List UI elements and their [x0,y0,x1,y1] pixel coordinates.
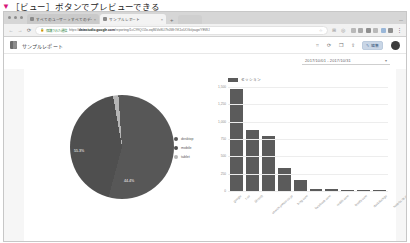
date-range-value: 2017/10/01 - 2017/10/31 [305,58,351,63]
pie-slice-label-mobile: 44.4% [124,179,134,183]
address-bar[interactable]: 🔒 保護された通信 https://datastudio.google.com/… [35,26,328,35]
pencil-icon: ✎ [366,43,369,48]
report-subbar: 2017/10/01 - 2017/10/31 ▾ [4,54,406,69]
new-tab-button[interactable]: + [167,17,177,24]
x-axis-label: google [232,194,242,203]
legend-label: desktop [181,137,194,141]
profile-icon[interactable]: ◎ [340,27,346,33]
extension-badge-icon[interactable]: ⊞ [331,27,337,33]
close-window-dot[interactable] [8,16,11,19]
tab-ghost [178,15,202,24]
report-title: サンプルレポート [22,42,63,49]
y-axis-tick: 250 [221,172,226,176]
gridline [228,122,388,123]
refresh-icon[interactable]: ⟳ [326,42,332,48]
tab-title: すべてのユーザー > すべてのデータ [36,17,92,22]
gridline [228,104,388,105]
url-path: /reporting/1cC99QO2o-eq86VoSLl7h0Wr7iK1x… [115,28,210,32]
favicon-icon [103,17,107,21]
caption-bullet-icon: ▼ [2,3,10,11]
avatar[interactable] [391,41,400,50]
bar-chart-legend: セッション [228,77,261,82]
bar[interactable] [294,180,307,191]
y-axis-tick: 1,250 [218,103,226,107]
tab-strip: すべてのユーザー > すべてのデータ × サンプルレポート × + — [4,12,406,24]
back-icon[interactable]: ← [8,27,14,33]
extension-icon-5[interactable] [381,28,386,33]
legend-label: tablet [181,155,190,159]
gridline [228,191,388,192]
secure-label: 保護された通信 [46,28,67,33]
minimize-icon[interactable]: — [399,17,403,22]
bar-chart[interactable]: セッション 1,5001,2501,0007505002500 googlet.… [204,77,394,237]
gridline [228,156,388,157]
legend-swatch-tablet [174,155,178,159]
window-controls[interactable]: — [399,17,406,24]
legend-label: mobile [181,146,192,150]
favicon-icon [30,17,34,21]
gridline [228,139,388,140]
legend-item[interactable]: tablet [174,155,194,159]
reset-icon[interactable]: ⌗ [314,42,320,49]
x-axis-label: bing.com [297,194,309,206]
page-content: サンプルレポート ⌗ ⟳ ❐ ⇪ ✎ 編集 2017/10/01 - 2017/… [4,37,406,242]
x-axis-label: reddit.com [336,194,350,207]
x-axis-label: facebook.com [314,194,331,210]
pie-chart[interactable]: 55.3% 44.4% desktop mobile tablet [62,87,202,207]
close-icon[interactable]: × [161,17,163,22]
minimize-window-dot[interactable] [14,16,17,19]
extension-icon-6[interactable] [388,28,393,33]
chevron-down-icon: ▾ [385,59,387,63]
omnibox-icons: ☆ [319,28,323,33]
bookmark-star-icon[interactable]: ☆ [319,28,323,33]
browser-tab-1[interactable]: すべてのユーザー > すべてのデータ × [27,14,99,24]
y-axis-tick: 1,000 [218,120,226,124]
bar[interactable] [278,168,291,191]
canvas-left-margin [4,69,24,242]
copy-icon[interactable]: ❐ [338,42,344,48]
window-buttons[interactable] [7,12,27,24]
legend-swatch-mobile [174,146,178,150]
x-axis-label: t.co [244,194,250,200]
x-axis-label: search.yahoo.co.jp [271,194,294,215]
url-text: https://datastudio.google.com/reporting/… [69,28,210,32]
lock-icon: 🔒 [40,28,44,32]
legend-item[interactable]: mobile [174,146,194,150]
close-icon[interactable]: × [94,17,96,22]
extension-toolbar[interactable] [349,28,394,33]
browser-menu-icon[interactable]: ⋮ [396,27,402,33]
tab-title: サンプルレポート [109,17,159,22]
x-axis-label: feedly.com [354,194,368,207]
legend-swatch-desktop [174,137,178,141]
edit-button[interactable]: ✎ 編集 [362,41,383,50]
app-header: サンプルレポート ⌗ ⟳ ❐ ⇪ ✎ 編集 [4,37,406,54]
caption-text: ［ビュー］ボタンでプレビューできる [11,0,160,11]
bar-chart-x-axis: googlet.co(direct)search.yahoo.co.jpbing… [228,194,388,198]
extension-icon-2[interactable] [358,28,363,33]
reload-icon[interactable]: ⟳ [26,27,32,33]
x-axis-label: (direct) [253,194,263,204]
date-range-selector[interactable]: 2017/10/01 - 2017/10/31 ▾ [302,58,390,65]
figure-caption: ▼ ［ビュー］ボタンでプレビューできる [0,0,410,11]
extension-icon-1[interactable] [351,28,356,33]
legend-swatch-sessions [228,78,238,82]
legend-item[interactable]: desktop [174,137,194,141]
legend-label: セッション [241,77,261,82]
pie-chart-graphic [70,95,174,199]
y-axis-tick: 1,500 [218,85,226,89]
bar[interactable] [262,136,275,191]
extension-icon-3[interactable] [366,28,371,33]
y-axis-tick: 500 [221,155,226,159]
gridline [228,174,388,175]
url-domain: datastudio.google.com [79,28,115,32]
forward-icon[interactable]: → [17,27,23,33]
gridline [228,87,388,88]
extension-icon-4[interactable] [373,28,378,33]
x-axis-label: duckduckgo [373,194,388,208]
header-actions: ⌗ ⟳ ❐ ⇪ ✎ 編集 [314,41,400,50]
edit-button-label: 編集 [371,43,379,48]
share-icon[interactable]: ⇪ [350,42,356,48]
y-axis-tick: 750 [221,137,226,141]
maximize-window-dot[interactable] [20,16,23,19]
browser-tab-2[interactable]: サンプルレポート × [100,14,166,24]
